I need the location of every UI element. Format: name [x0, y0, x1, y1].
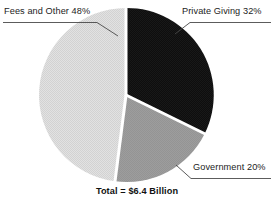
slice-label-government: Government 20% [193, 162, 266, 173]
pie-slice-fees-and-other [39, 8, 126, 181]
pie-chart-figure: Fees and Other 48% Private Giving 32% Go… [0, 0, 274, 204]
pie-chart-graphic [0, 0, 274, 204]
slice-label-fees-and-other: Fees and Other 48% [4, 6, 90, 17]
leader-line-private-giving [175, 23, 271, 35]
chart-total-caption: Total = $6.4 Billion [0, 186, 274, 196]
slice-label-private-giving: Private Giving 32% [182, 6, 262, 17]
